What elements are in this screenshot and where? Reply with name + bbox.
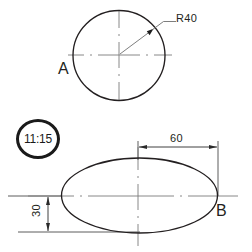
ellipse-outline-b: [62, 158, 218, 233]
height-arrowhead-top: [46, 197, 50, 205]
view-label-a: A: [58, 61, 69, 77]
radius-dimension-text: R40: [176, 13, 197, 24]
width-arrowhead-left: [139, 145, 147, 149]
width-arrowhead-right: [209, 145, 217, 149]
view-label-b: B: [216, 203, 227, 219]
width-dimension-text: 60: [170, 133, 183, 144]
radius-leader-line: [120, 31, 152, 55]
top-view-group: [68, 10, 176, 101]
height-arrowhead-bottom: [46, 223, 50, 231]
height-dimension-text: 30: [31, 204, 42, 217]
technical-drawing-canvas: A R40 60 30 B 11:15: [0, 0, 252, 252]
clock-badge-time: 11:15: [24, 132, 52, 146]
clock-badge: 11:15: [16, 119, 60, 159]
